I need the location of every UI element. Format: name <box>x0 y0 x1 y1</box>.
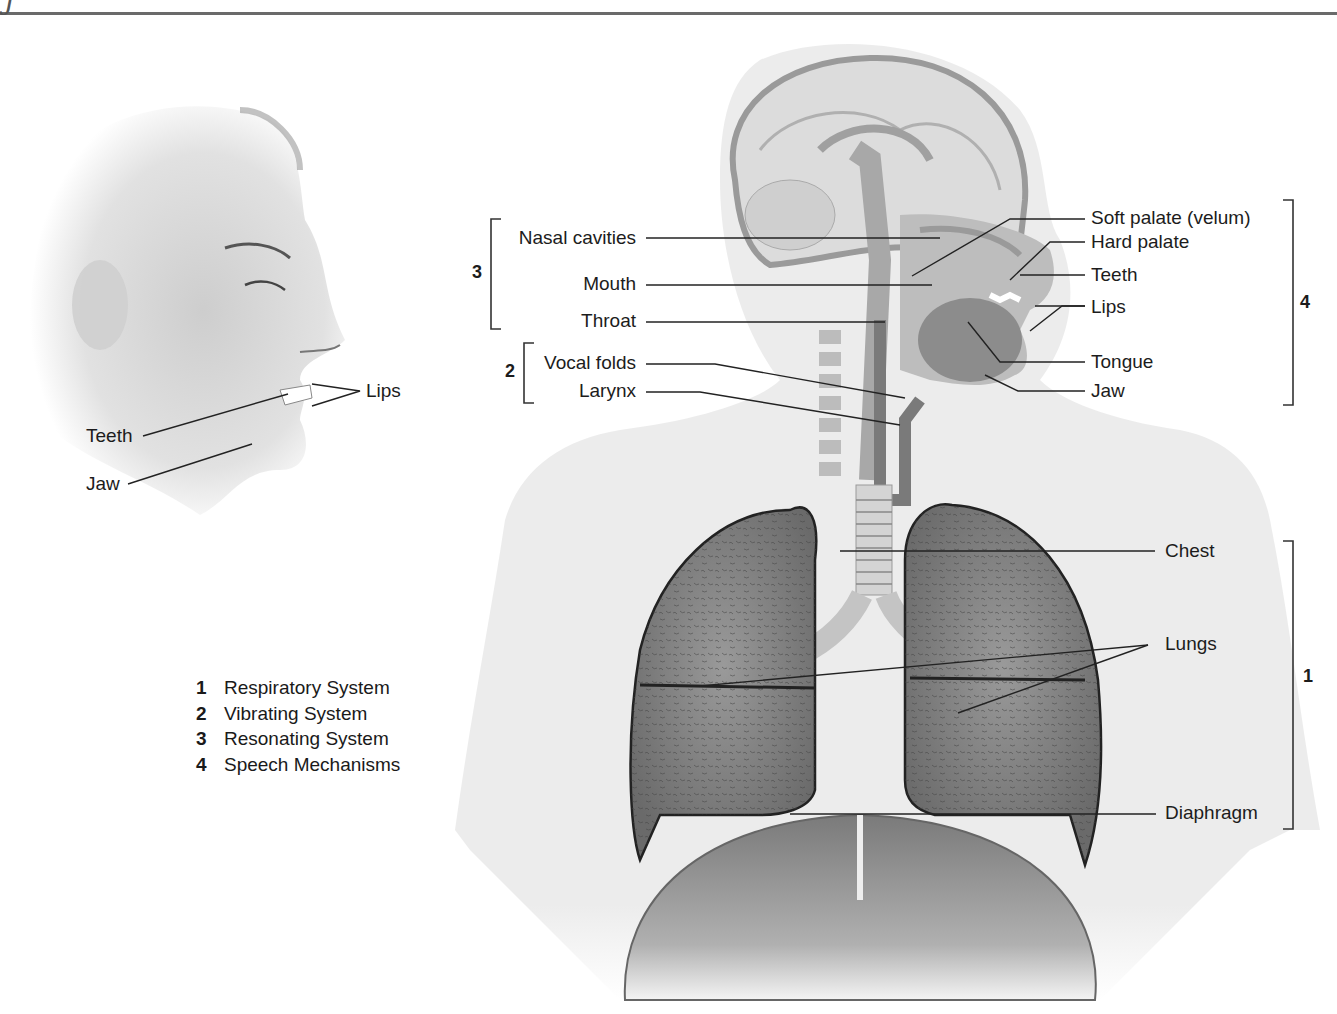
label-larynx: Larynx <box>579 380 636 402</box>
face-label-lips: Lips <box>366 380 401 402</box>
legend-number: 2 <box>196 701 210 727</box>
legend-item: 1 Respiratory System <box>196 675 400 701</box>
bracket-number-1: 1 <box>1303 666 1313 687</box>
bracket-number-3: 3 <box>472 262 482 283</box>
legend-label: Resonating System <box>224 726 389 752</box>
label-tongue: Tongue <box>1091 351 1153 373</box>
anatomy-illustration <box>0 0 1337 1014</box>
systems-legend: 1 Respiratory System 2 Vibrating System … <box>196 675 400 777</box>
face-label-jaw: Jaw <box>86 473 120 495</box>
bracket-number-2: 2 <box>505 361 515 382</box>
label-teeth: Teeth <box>1091 264 1137 286</box>
legend-item: 2 Vibrating System <box>196 701 400 727</box>
label-soft-palate: Soft palate (velum) <box>1091 207 1250 229</box>
legend-label: Speech Mechanisms <box>224 752 400 778</box>
legend-number: 1 <box>196 675 210 701</box>
face-profile <box>30 106 345 515</box>
legend-item: 3 Resonating System <box>196 726 400 752</box>
legend-number: 3 <box>196 726 210 752</box>
legend-label: Respiratory System <box>224 675 390 701</box>
legend-item: 4 Speech Mechanisms <box>196 752 400 778</box>
label-lips: Lips <box>1091 296 1126 318</box>
label-vocal-folds: Vocal folds <box>544 352 636 374</box>
label-throat: Throat <box>581 310 636 332</box>
label-nasal-cavities: Nasal cavities <box>519 227 636 249</box>
label-hard-palate: Hard palate <box>1091 231 1189 253</box>
label-lungs: Lungs <box>1165 633 1217 655</box>
legend-label: Vibrating System <box>224 701 367 727</box>
legend-number: 4 <box>196 752 210 778</box>
face-label-teeth: Teeth <box>86 425 132 447</box>
label-diaphragm: Diaphragm <box>1165 802 1258 824</box>
label-jaw: Jaw <box>1091 380 1125 402</box>
label-chest: Chest <box>1165 540 1215 562</box>
bracket-number-4: 4 <box>1300 292 1310 313</box>
label-mouth: Mouth <box>583 273 636 295</box>
